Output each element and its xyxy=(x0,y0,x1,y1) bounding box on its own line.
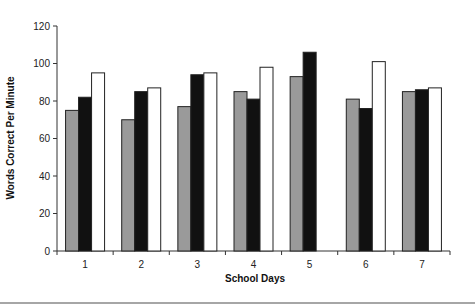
bar xyxy=(135,92,148,251)
bar xyxy=(428,88,441,251)
y-tick-label: 120 xyxy=(33,21,50,32)
bar xyxy=(79,97,92,251)
y-tick-label: 80 xyxy=(39,96,51,107)
bar xyxy=(204,73,217,251)
bar xyxy=(191,75,204,251)
bar xyxy=(178,107,191,251)
bar xyxy=(415,90,428,251)
x-tick-label: 1 xyxy=(82,259,88,270)
y-axis-title: Words Correct Per Minute xyxy=(5,76,16,200)
x-axis-title: School Days xyxy=(225,273,285,284)
bar xyxy=(402,92,415,251)
x-tick-label: 2 xyxy=(138,259,144,270)
y-axis: 020406080100120 xyxy=(33,21,57,257)
bars xyxy=(66,52,442,251)
x-tick-label: 5 xyxy=(307,259,313,270)
bar xyxy=(247,99,260,251)
x-tick-label: 7 xyxy=(419,259,425,270)
bar xyxy=(303,52,316,251)
y-tick-label: 100 xyxy=(33,58,50,69)
bar xyxy=(346,99,359,251)
bar xyxy=(66,110,79,251)
bar-chart: 020406080100120 1234567 Words Correct Pe… xyxy=(0,0,475,307)
bar xyxy=(372,62,385,251)
y-tick-label: 0 xyxy=(44,246,50,257)
bar xyxy=(260,67,273,251)
x-tick-label: 4 xyxy=(251,259,257,270)
x-tick-label: 6 xyxy=(363,259,369,270)
y-tick-label: 20 xyxy=(39,208,51,219)
y-tick-label: 40 xyxy=(39,171,51,182)
x-axis: 1234567 xyxy=(57,251,450,270)
bar xyxy=(122,120,135,251)
bar xyxy=(234,92,247,251)
bar xyxy=(92,73,105,251)
bar xyxy=(148,88,161,251)
bar xyxy=(290,77,303,251)
y-tick-label: 60 xyxy=(39,133,51,144)
x-tick-label: 3 xyxy=(195,259,201,270)
bar xyxy=(359,109,372,252)
